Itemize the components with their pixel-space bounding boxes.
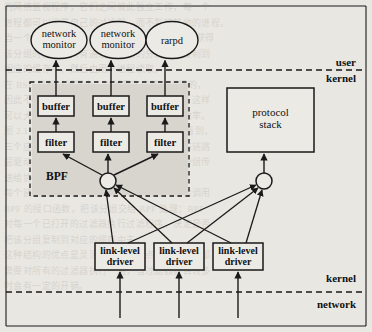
proc-2-line1: network	[101, 28, 136, 39]
bpf-label: BPF	[46, 170, 68, 182]
filter-1-label: filter	[45, 137, 67, 148]
driver-3-line2: driver	[225, 256, 252, 267]
label-network: network	[317, 298, 357, 310]
driver-1-line1: link-level	[100, 245, 140, 256]
protocol-stack-line1: protocol	[252, 106, 289, 118]
proc-1-line1: network	[42, 28, 77, 39]
driver-2-line1: link-level	[159, 245, 199, 256]
buffer-1-label: buffer	[42, 101, 70, 112]
arrow-driver3-to-protocol-junction	[246, 190, 262, 243]
filter-3-label: filter	[154, 137, 176, 148]
proc-3-line1: rarpd	[161, 35, 184, 46]
bpf-architecture-diagram: 的网络监视程序，它们之间彼此独立工作，每一个进程都可以设置自己的过滤器，而不影响…	[0, 0, 372, 332]
driver-1-line2: driver	[107, 256, 134, 267]
protocol-junction-circle[interactable]	[256, 173, 272, 189]
proc-1-line2: monitor	[42, 39, 76, 50]
arrow-driver1-to-bpf-junction	[106, 190, 113, 243]
driver-2-line2: driver	[166, 256, 193, 267]
buffer-3-label: buffer	[151, 101, 179, 112]
diagram-canvas: network monitor network monitor rarpd bu…	[0, 0, 372, 332]
protocol-stack-line2: stack	[259, 118, 282, 130]
bpf-junction-circle[interactable]	[100, 173, 116, 189]
arrow-driver2-to-protocol-junction	[187, 188, 258, 243]
label-user: user	[336, 56, 356, 68]
driver-3-line1: link-level	[218, 245, 258, 256]
label-kernel-upper: kernel	[326, 72, 356, 84]
label-kernel-lower: kernel	[326, 272, 356, 284]
filter-2-label: filter	[100, 137, 122, 148]
buffer-2-label: buffer	[97, 101, 125, 112]
proc-2-line2: monitor	[101, 39, 135, 50]
